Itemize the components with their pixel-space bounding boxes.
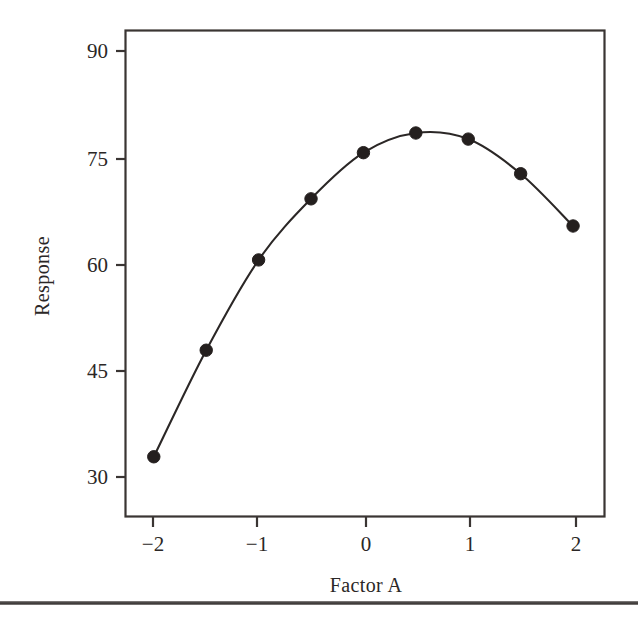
x-tick-label-neg2: −2 [142,532,164,556]
y-axis-tick-labels: 90 75 60 45 30 [87,39,108,489]
response-curve [154,132,573,457]
x-tick-label-0: 0 [361,532,372,556]
data-point [357,146,369,158]
y-axis-title: Response [31,236,54,316]
y-tick-label-90: 90 [87,39,108,63]
x-axis-ticks [153,516,576,527]
y-tick-label-45: 45 [87,359,108,383]
data-point [200,344,212,356]
y-tick-label-60: 60 [87,253,108,277]
x-axis-title: Factor A [330,574,403,596]
response-data-points [148,127,580,463]
figure-container: 90 75 60 45 30 −2 −1 0 1 2 Factor A Resp… [0,0,638,619]
data-point [252,254,264,266]
response-surface-line-chart: 90 75 60 45 30 −2 −1 0 1 2 Factor A Resp… [0,0,638,619]
data-point [462,133,474,145]
x-tick-label-neg1: −1 [246,532,268,556]
x-tick-label-1: 1 [465,532,476,556]
x-tick-label-2: 2 [571,532,582,556]
data-point [567,220,579,232]
plot-frame [126,31,605,517]
y-tick-label-75: 75 [87,147,108,171]
data-point [148,451,160,463]
x-axis-tick-labels: −2 −1 0 1 2 [142,532,581,556]
data-point [305,193,317,205]
data-point [410,127,422,139]
data-point [514,168,526,180]
y-tick-label-30: 30 [87,465,108,489]
footer-rule [0,601,638,605]
